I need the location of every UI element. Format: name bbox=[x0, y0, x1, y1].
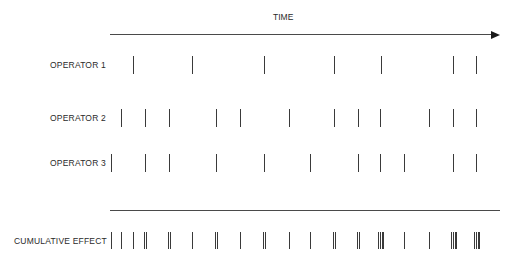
event-tick bbox=[476, 109, 477, 127]
operator-1-events bbox=[0, 56, 519, 74]
cumulative-tick bbox=[265, 232, 266, 249]
cumulative-tick bbox=[359, 232, 360, 249]
time-axis-title: TIME bbox=[273, 12, 293, 22]
operator-2-events bbox=[0, 109, 519, 127]
cumulative-tick bbox=[168, 232, 169, 249]
cumulative-tick bbox=[170, 232, 171, 249]
event-tick bbox=[476, 56, 477, 74]
cumulative-tick bbox=[429, 232, 430, 249]
cumulative-tick bbox=[289, 232, 290, 249]
cumulative-tick bbox=[240, 232, 241, 249]
cumulative-tick bbox=[451, 232, 452, 249]
cumulative-tick bbox=[378, 232, 379, 249]
cumulative-tick bbox=[357, 232, 358, 249]
event-tick bbox=[453, 56, 454, 74]
event-tick bbox=[334, 109, 335, 127]
event-tick bbox=[358, 154, 359, 172]
cumulative-tick bbox=[335, 232, 336, 249]
cumulative-tick bbox=[215, 232, 216, 249]
event-tick bbox=[240, 109, 241, 127]
cumulative-tick bbox=[133, 232, 134, 249]
event-tick bbox=[453, 154, 454, 172]
event-tick bbox=[380, 109, 381, 127]
event-tick bbox=[121, 109, 122, 127]
event-tick bbox=[453, 109, 454, 127]
event-tick bbox=[429, 109, 430, 127]
event-tick bbox=[264, 154, 265, 172]
event-tick bbox=[169, 154, 170, 172]
cumulative-effect-events bbox=[0, 232, 519, 249]
event-tick bbox=[476, 154, 477, 172]
event-tick bbox=[133, 56, 134, 74]
event-tick bbox=[289, 109, 290, 127]
operator-3-events bbox=[0, 154, 519, 172]
cumulative-tick bbox=[146, 232, 147, 249]
event-tick bbox=[145, 109, 146, 127]
cumulative-tick bbox=[380, 232, 381, 249]
cumulative-tick bbox=[111, 232, 112, 249]
cumulative-tick bbox=[382, 232, 383, 249]
arrow-right-icon bbox=[491, 31, 500, 39]
event-tick bbox=[192, 56, 193, 74]
event-tick bbox=[404, 154, 405, 172]
cumulative-tick bbox=[474, 232, 475, 249]
event-tick bbox=[310, 154, 311, 172]
cumulative-tick bbox=[144, 232, 145, 249]
event-tick bbox=[169, 109, 170, 127]
event-tick bbox=[358, 109, 359, 127]
cumulative-tick bbox=[476, 232, 477, 249]
event-tick bbox=[111, 154, 112, 172]
cumulative-tick bbox=[192, 232, 193, 249]
event-tick bbox=[334, 56, 335, 74]
event-tick bbox=[380, 154, 381, 172]
cumulative-tick bbox=[404, 232, 405, 249]
cumulative-tick bbox=[310, 232, 311, 249]
cumulative-tick bbox=[263, 232, 264, 249]
cumulative-tick bbox=[121, 232, 122, 249]
event-tick bbox=[216, 109, 217, 127]
event-tick bbox=[264, 56, 265, 74]
cumulative-tick bbox=[333, 232, 334, 249]
time-axis-line bbox=[110, 34, 492, 35]
event-tick bbox=[145, 154, 146, 172]
event-tick bbox=[216, 154, 217, 172]
cumulative-tick bbox=[453, 232, 454, 249]
divider-line bbox=[110, 210, 500, 211]
event-tick bbox=[381, 56, 382, 74]
cumulative-tick bbox=[217, 232, 218, 249]
cumulative-tick bbox=[478, 232, 479, 249]
cumulative-tick bbox=[455, 232, 456, 249]
